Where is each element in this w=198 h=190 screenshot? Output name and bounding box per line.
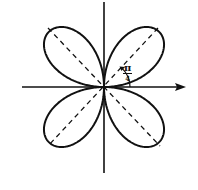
angle-label-numerator: π — [123, 63, 132, 74]
angle-label-denominator: 4 — [125, 74, 130, 82]
angle-label: π 4 — [123, 58, 132, 82]
rose-curve-diagram — [0, 0, 198, 190]
